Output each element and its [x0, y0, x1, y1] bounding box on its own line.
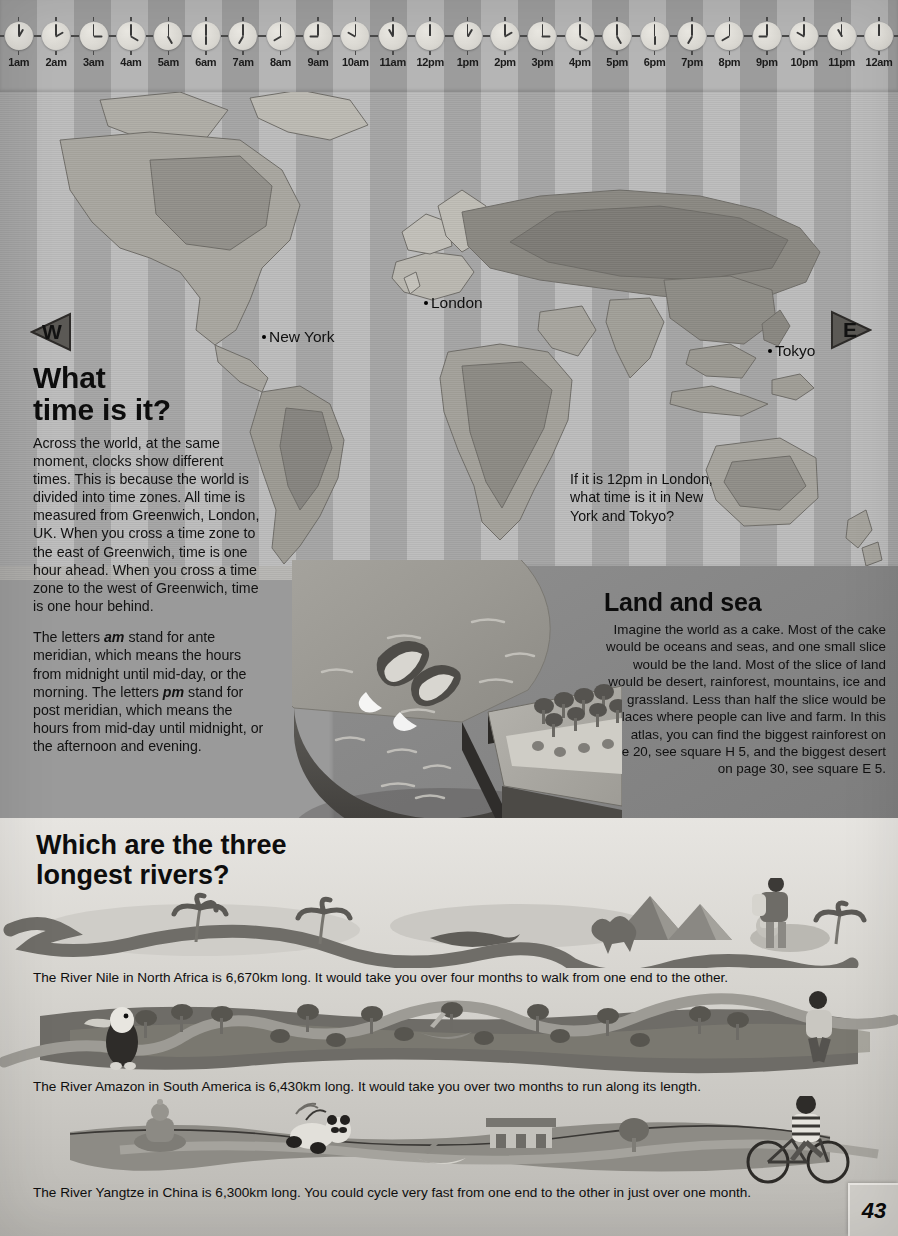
- clock-tick: [168, 17, 170, 21]
- river-caption-amazon: The River Amazon in South America is 6,4…: [33, 1079, 701, 1094]
- clock-3am: 3am: [75, 0, 112, 92]
- clock-tick: [149, 35, 153, 37]
- clock-hour-hand: [579, 35, 587, 41]
- clock-label: 11pm: [823, 56, 860, 68]
- clock-minute-hand: [616, 24, 618, 36]
- clock-7pm: 7pm: [673, 0, 710, 92]
- clock-face-icon: [5, 22, 33, 50]
- atlas-page: W E London New York Tokyo 1am2am3am4am5a…: [0, 0, 898, 1236]
- clock-tick: [748, 35, 752, 37]
- clock-hour-hand: [687, 36, 693, 44]
- clock-face-icon: [379, 22, 407, 50]
- clock-hour-hand: [167, 36, 173, 44]
- clock-2am: 2am: [37, 0, 74, 92]
- clock-face-icon: [192, 22, 220, 50]
- clock-minute-hand: [18, 24, 20, 36]
- clock-tick: [55, 51, 57, 55]
- title-line-1: What: [33, 361, 106, 394]
- clock-label: 4am: [112, 56, 149, 68]
- clock-label: 10pm: [786, 56, 823, 68]
- clock-tick: [355, 51, 357, 55]
- clock-face-icon: [753, 22, 781, 50]
- clock-tick: [262, 35, 266, 37]
- clock-label: 9pm: [748, 56, 785, 68]
- clock-hour-hand: [94, 35, 103, 37]
- clock-2pm: 2pm: [486, 0, 523, 92]
- clock-face-icon: [491, 22, 519, 50]
- clock-tick: [374, 35, 378, 37]
- clock-tick: [429, 51, 431, 55]
- compass-west-arrow: W: [30, 312, 74, 352]
- clock-face-icon: [641, 22, 669, 50]
- clock-10am: 10am: [337, 0, 374, 92]
- clock-face-icon: [790, 22, 818, 50]
- clock-label: 7am: [224, 56, 261, 68]
- clock-6pm: 6pm: [636, 0, 673, 92]
- clock-minute-hand: [242, 24, 244, 36]
- river-caption-yangtze: The River Yangtze in China is 6,300km lo…: [33, 1185, 751, 1200]
- clock-4am: 4am: [112, 0, 149, 92]
- clock-tick: [75, 35, 79, 37]
- p2-emphasis-pm: pm: [163, 684, 184, 700]
- clock-tick: [242, 17, 244, 21]
- clock-tick: [280, 51, 282, 55]
- clock-tick: [673, 35, 677, 37]
- clock-tick: [280, 17, 282, 21]
- clock-tick: [130, 17, 132, 21]
- pagoda-gate-icon: [486, 1118, 556, 1148]
- clock-tick: [224, 35, 228, 37]
- clock-minute-hand: [467, 24, 469, 36]
- clock-minute-hand: [168, 24, 170, 36]
- clock-face-icon: [828, 22, 856, 50]
- clock-tick: [691, 17, 693, 21]
- clock-label: 11am: [374, 56, 411, 68]
- river-caption-nile: The River Nile in North Africa is 6,670k…: [33, 970, 728, 985]
- clock-tick: [205, 17, 207, 21]
- river-illustration-yangtze: [0, 1096, 898, 1184]
- clock-tick: [355, 17, 357, 21]
- clock-minute-hand: [130, 24, 132, 36]
- page-title: What time is it?: [33, 362, 265, 426]
- clock-face-icon: [566, 22, 594, 50]
- clock-tick: [411, 35, 415, 37]
- clock-tick: [860, 35, 864, 37]
- clock-minute-hand: [542, 24, 544, 36]
- clock-tick: [542, 17, 544, 21]
- clock-tick: [729, 51, 731, 55]
- clock-label: 2am: [37, 56, 74, 68]
- clock-label: 12am: [860, 56, 897, 68]
- clock-tick: [616, 51, 618, 55]
- clock-tick: [616, 17, 618, 21]
- clock-11am: 11am: [374, 0, 411, 92]
- clock-tick: [785, 35, 789, 37]
- clock-tick: [803, 17, 805, 21]
- clock-label: 1am: [0, 56, 37, 68]
- question-callout: If it is 12pm in London, what time is it…: [570, 470, 720, 525]
- clock-minute-hand: [579, 24, 581, 36]
- clock-label: 4pm: [561, 56, 598, 68]
- city-dot-icon: [768, 349, 772, 353]
- clock-tick: [37, 35, 41, 37]
- clock-face-icon: [304, 22, 332, 50]
- clock-label: 6am: [187, 56, 224, 68]
- clock-label: 3pm: [524, 56, 561, 68]
- clock-minute-hand: [654, 24, 656, 36]
- clock-hour-hand: [130, 35, 138, 41]
- clock-tick: [504, 51, 506, 55]
- clock-tick: [0, 35, 4, 37]
- rivers-title-line-1: Which are the three: [36, 830, 287, 860]
- clock-8pm: 8pm: [711, 0, 748, 92]
- clock-minute-hand: [205, 24, 207, 36]
- clock-label: 8am: [262, 56, 299, 68]
- clock-hour-hand: [542, 35, 551, 37]
- clock-tick: [636, 35, 640, 37]
- clock-1am: 1am: [0, 0, 37, 92]
- clock-tick: [598, 35, 602, 37]
- clock-label: 9am: [299, 56, 336, 68]
- clock-minute-hand: [55, 24, 57, 36]
- clock-tick: [93, 17, 95, 21]
- clock-5am: 5am: [150, 0, 187, 92]
- city-dot-icon: [424, 301, 428, 305]
- clock-3pm: 3pm: [524, 0, 561, 92]
- clock-minute-hand: [803, 24, 805, 36]
